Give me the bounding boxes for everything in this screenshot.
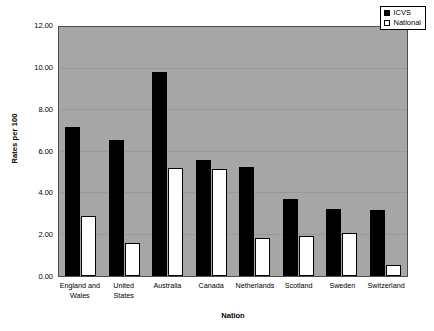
- plot-area: [58, 26, 408, 277]
- bar-national: [386, 265, 401, 276]
- bar-icvs: [152, 72, 167, 276]
- bar-group: [233, 27, 277, 276]
- y-axis-tick-label: 0.00: [38, 273, 53, 281]
- legend-item-national: National: [384, 19, 421, 28]
- bar-group: [277, 27, 321, 276]
- y-axis-tick-label: 6.00: [38, 148, 53, 156]
- y-axis-title: Rates per 100: [6, 0, 22, 277]
- x-axis-tick-label: Switzerland: [364, 281, 408, 300]
- y-axis-tick-label: 4.00: [38, 190, 53, 198]
- x-axis-title: Nation: [58, 311, 408, 320]
- y-axis-tick-label: 12.00: [34, 22, 53, 30]
- x-axis-tick-label: United States: [102, 281, 146, 300]
- legend-label-icvs: ICVS: [393, 9, 411, 18]
- bar-icvs: [326, 209, 341, 276]
- bar-icvs: [65, 127, 80, 276]
- bar-group: [320, 27, 364, 276]
- x-axis-tick-label: Netherlands: [233, 281, 277, 300]
- bar-icvs: [283, 199, 298, 276]
- x-axis-tick-label: Sweden: [321, 281, 365, 300]
- bar-icvs: [239, 167, 254, 276]
- bar-national: [212, 169, 227, 276]
- x-axis-tick-label: England and Wales: [58, 281, 102, 300]
- y-axis-title-text: Rates per 100: [10, 113, 19, 163]
- y-axis-tick-labels: 0.002.004.006.008.0010.0012.00: [22, 0, 56, 331]
- x-axis-tick-labels: England and WalesUnited StatesAustraliaC…: [58, 281, 408, 300]
- bar-national: [125, 243, 140, 276]
- legend-swatch-icon-national: [384, 20, 390, 26]
- legend-label-national: National: [393, 19, 421, 28]
- bar-group: [146, 27, 190, 276]
- bar-national: [299, 236, 314, 276]
- x-axis-tick-label: Australia: [146, 281, 190, 300]
- y-axis-tick-label: 8.00: [38, 106, 53, 114]
- x-axis-tick-label: Canada: [189, 281, 233, 300]
- bar-national: [255, 238, 270, 276]
- bar-national: [168, 168, 183, 276]
- bar-group: [59, 27, 103, 276]
- y-axis-tick-label: 10.00: [34, 64, 53, 72]
- legend-item-icvs: ICVS: [384, 9, 421, 18]
- bar-group: [364, 27, 408, 276]
- bar-national: [81, 216, 96, 276]
- bar-icvs: [196, 160, 211, 276]
- bar-chart: Rates per 100 0.002.004.006.008.0010.001…: [0, 0, 434, 331]
- x-axis-tick-label: Scotland: [277, 281, 321, 300]
- legend: ICVS National: [380, 6, 426, 30]
- legend-swatch-icon-icvs: [384, 10, 390, 16]
- bar-icvs: [109, 140, 124, 276]
- bar-group: [103, 27, 147, 276]
- bar-group: [190, 27, 234, 276]
- bars-layer: [59, 27, 407, 276]
- y-axis-tick-label: 2.00: [38, 231, 53, 239]
- bar-national: [342, 233, 357, 276]
- bar-icvs: [370, 210, 385, 276]
